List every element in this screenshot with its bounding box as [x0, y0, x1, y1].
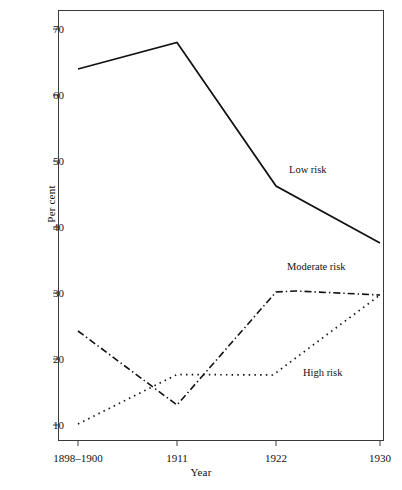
y-tick-label-60: 60: [38, 89, 64, 101]
y-tick-label-40: 40: [38, 221, 64, 233]
series-line-low-risk: [78, 43, 380, 244]
x-axis-title: Year: [0, 466, 402, 478]
chart-figure: Per cent Year 70 60 50 40 30 20 10 1898–…: [0, 0, 402, 490]
series-label-high-risk: High risk: [303, 367, 342, 378]
y-tick-label-70: 70: [38, 23, 64, 35]
y-axis-title: Per cent: [45, 159, 57, 249]
x-tick-label-1922: 1922: [236, 452, 316, 464]
plot-canvas: [0, 0, 402, 490]
x-axis-ticks: [78, 441, 380, 447]
x-tick-label-1911: 1911: [137, 452, 217, 464]
x-tick-label-1898-1900: 1898–1900: [38, 452, 118, 464]
y-tick-label-20: 20: [38, 353, 64, 365]
series-line-moderate-risk: [78, 291, 380, 405]
series-line-high-risk: [78, 295, 380, 424]
y-tick-label-10: 10: [38, 419, 64, 431]
series-label-moderate-risk: Moderate risk: [287, 261, 346, 272]
y-tick-label-30: 30: [38, 287, 64, 299]
series-label-low-risk: Low risk: [289, 164, 327, 175]
x-tick-label-1930: 1930: [340, 452, 402, 464]
y-tick-label-50: 50: [38, 155, 64, 167]
